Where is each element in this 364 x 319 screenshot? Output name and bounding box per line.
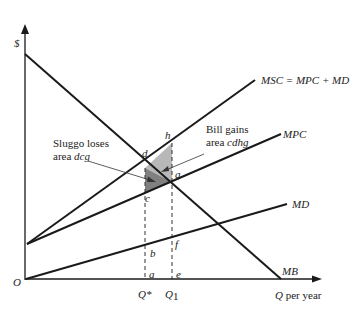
bill-annotation-line2: area cdhg	[206, 136, 249, 148]
y-axis-label: $	[14, 37, 20, 49]
x-axis-arrow-icon	[312, 276, 322, 283]
sluggo-annotation-line2: area dcg	[53, 150, 90, 162]
sluggo-annotation-line1: Sluggo loses	[53, 137, 109, 149]
msc-curve	[27, 80, 255, 244]
point-c-label: c	[145, 192, 150, 204]
mb-label: MB	[281, 265, 298, 277]
md-curve	[26, 204, 287, 279]
x-axis-label: Q per year	[275, 289, 322, 301]
point-a-label: a	[149, 268, 155, 280]
md-label: MD	[291, 198, 309, 210]
mpc-label: MPC	[282, 128, 307, 140]
externality-diagram: $ O Q per year MSC = MPC + MD MPC MD MB …	[0, 0, 364, 319]
y-axis-arrow-icon	[21, 24, 29, 34]
point-d-label: d	[142, 147, 148, 159]
origin-label: O	[13, 276, 21, 288]
point-h-label: h	[165, 129, 171, 141]
q-star-label: Q*	[138, 288, 152, 300]
point-e-label: e	[176, 268, 181, 280]
point-g-label: g	[175, 168, 181, 180]
point-b-label: b	[150, 247, 156, 259]
q1-label: Q1	[165, 288, 178, 302]
msc-label: MSC = MPC + MD	[260, 74, 349, 86]
point-f-label: f	[175, 238, 180, 250]
bill-annotation-line1: Bill gains	[206, 123, 248, 135]
